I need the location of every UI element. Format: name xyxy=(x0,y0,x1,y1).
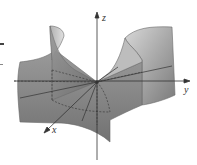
origin xyxy=(96,81,99,84)
y-axis-label: y xyxy=(184,85,188,95)
x-axis-label: x xyxy=(52,125,56,135)
z-axis-arrow xyxy=(95,12,99,18)
z-axis-label: z xyxy=(102,13,106,23)
edge-mark xyxy=(0,43,4,45)
y-axis-arrow xyxy=(184,79,190,83)
saddle-surface-plot xyxy=(0,0,197,165)
edge-mark xyxy=(0,64,3,65)
